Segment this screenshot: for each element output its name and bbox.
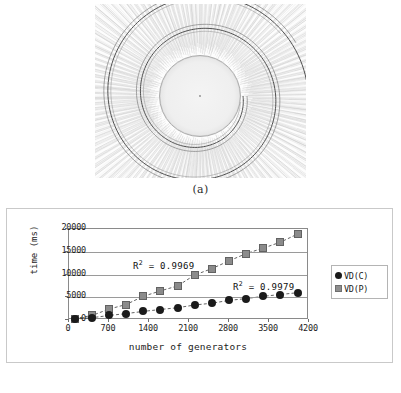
data-point-vd-p <box>122 301 130 309</box>
y-tick-label: 10000 <box>40 268 86 278</box>
x-tick-mark <box>268 319 269 322</box>
data-point-vd-c <box>156 306 164 314</box>
r2-annotation-vd-p: R2 = 0.9969 <box>133 259 194 271</box>
y-tick-mark <box>65 296 68 297</box>
x-tick-label: 4200 <box>285 323 331 333</box>
data-point-vd-p <box>242 250 250 258</box>
y-tick-mark <box>65 274 68 275</box>
x-tick-mark <box>308 319 309 322</box>
x-tick-mark <box>148 319 149 322</box>
y-tick-mark <box>65 228 68 229</box>
data-point-vd-p <box>276 238 284 246</box>
figure-b-panel: time (ms) 05000100001500020000 070014002… <box>0 200 401 393</box>
x-tick-mark <box>188 319 189 322</box>
data-point-vd-c <box>88 314 96 322</box>
data-point-vd-c <box>208 299 216 307</box>
figure-a-panel: (a) <box>0 0 401 200</box>
chart-legend: VD(C) VD(P) <box>331 265 388 299</box>
x-tick-mark <box>108 319 109 322</box>
data-point-vd-c <box>174 304 182 312</box>
square-marker-icon <box>335 285 342 292</box>
x-tick-mark <box>228 319 229 322</box>
data-point-vd-c <box>122 310 130 318</box>
y-tick-label: 0 <box>40 313 86 323</box>
y-tick-label: 5000 <box>40 290 86 300</box>
legend-label-vd-p: VD(P) <box>344 284 368 294</box>
gridline <box>69 275 307 276</box>
legend-label-vd-c: VD(C) <box>344 271 368 281</box>
voronoi-diagram-svg <box>95 4 306 178</box>
data-point-vd-p <box>259 244 267 252</box>
gridline <box>69 252 307 253</box>
y-axis-title: time (ms) <box>29 220 39 280</box>
y-tick-mark <box>65 251 68 252</box>
data-point-vd-p <box>139 292 147 300</box>
data-point-vd-p <box>156 287 164 295</box>
data-point-vd-p <box>208 265 216 273</box>
data-point-vd-p <box>174 282 182 290</box>
y-tick-label: 15000 <box>40 245 86 255</box>
r2-annotation-vd-c: R2 = 0.9979 <box>233 280 294 292</box>
data-point-vd-c <box>294 289 302 297</box>
data-point-vd-p <box>294 230 302 238</box>
legend-item-vd-c[interactable]: VD(C) <box>335 269 385 282</box>
x-axis-title: number of generators <box>68 341 308 352</box>
x-tick-mark <box>68 319 69 322</box>
data-point-vd-c <box>242 295 250 303</box>
data-point-vd-c <box>191 301 199 309</box>
legend-item-vd-p[interactable]: VD(P) <box>335 282 385 295</box>
chart-container: time (ms) 05000100001500020000 070014002… <box>6 208 393 363</box>
data-point-vd-p <box>225 257 233 265</box>
data-point-vd-p <box>191 271 199 279</box>
figure-a-caption: (a) <box>0 183 401 196</box>
voronoi-spiral-image <box>95 4 306 178</box>
gridline <box>69 297 307 298</box>
y-tick-label: 20000 <box>40 222 86 232</box>
plot-area <box>68 228 308 319</box>
circle-marker-icon <box>335 272 342 279</box>
